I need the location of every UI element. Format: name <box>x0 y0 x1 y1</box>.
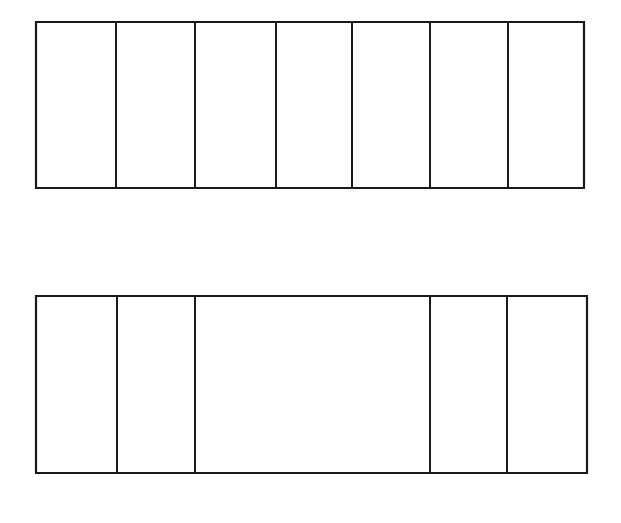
bar-2-segment-4[interactable] <box>431 297 506 472</box>
bar-2-group <box>36 296 587 473</box>
bar-2-segment-2[interactable] <box>118 297 194 472</box>
segmented-bar-diagram <box>0 0 621 523</box>
bar-1-segment-3[interactable] <box>196 23 275 187</box>
bar-1-segment-5[interactable] <box>353 23 429 187</box>
figure-canvas: Two horizontal segmented bars (stacked p… <box>0 0 621 523</box>
bar-2-segment-5[interactable] <box>508 297 586 472</box>
bar-1-segment-6[interactable] <box>431 23 507 187</box>
bar-1-group <box>36 22 584 188</box>
bar-2-segment-3[interactable] <box>196 297 429 472</box>
bar-1-segments <box>37 23 583 187</box>
bar-1-segment-4[interactable] <box>277 23 351 187</box>
bar-1-segment-1[interactable] <box>37 23 115 187</box>
bar-2-segments <box>37 297 586 472</box>
bar-2-segment-1[interactable] <box>37 297 116 472</box>
bar-1-segment-7[interactable] <box>509 23 583 187</box>
bar-1-segment-2[interactable] <box>117 23 194 187</box>
